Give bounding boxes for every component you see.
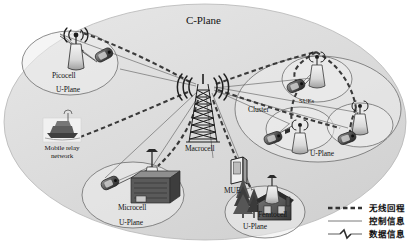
legend-zigzag-line bbox=[328, 230, 362, 238]
macrocell-label: Macrocell bbox=[185, 145, 215, 153]
cluster-label: Cluster bbox=[248, 106, 269, 114]
femtocell-label: Femtocell bbox=[258, 211, 287, 219]
cplane-title: C-Plane bbox=[186, 15, 221, 26]
femtocell-uplane-label: U-Plane bbox=[243, 223, 267, 231]
mobile-relay-network-label: Mobile relay network bbox=[34, 144, 90, 160]
legend-label-control-information: 控制信息 bbox=[369, 217, 405, 226]
network-architecture-diagram: C-Plane Picocell U-Plane Mobile relay ne… bbox=[0, 0, 415, 250]
picocell-label: Picocell bbox=[52, 72, 75, 80]
microcell-label: Microcell bbox=[118, 204, 146, 212]
mue-label: MUE bbox=[224, 187, 240, 195]
legend-label-wireless-backhaul: 无线回程 bbox=[369, 204, 405, 213]
picocell-uplane-label: U-Plane bbox=[56, 86, 80, 94]
cluster-uplane-label: U-Plane bbox=[310, 150, 334, 158]
mue-device bbox=[231, 157, 247, 184]
sues-label: SUEs bbox=[299, 98, 314, 105]
microcell-uplane-label: U-Plane bbox=[119, 219, 143, 227]
legend-label-data-information: 数据信息 bbox=[369, 230, 405, 239]
diagram-canvas bbox=[0, 0, 415, 250]
